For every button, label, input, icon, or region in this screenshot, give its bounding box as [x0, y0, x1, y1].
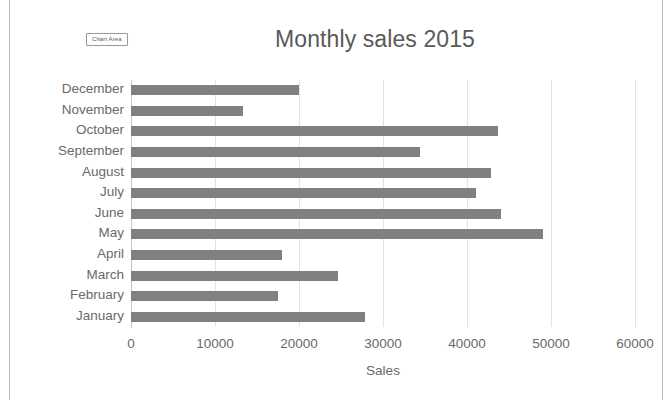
bar-february[interactable]	[131, 291, 278, 301]
value-axis-title: Sales	[131, 363, 635, 378]
bar-row	[131, 286, 635, 307]
value-tick-label-60000: 60000	[616, 336, 654, 351]
bar-october[interactable]	[131, 126, 498, 136]
bar-august[interactable]	[131, 168, 491, 178]
value-tick-label-50000: 50000	[532, 336, 570, 351]
category-label-november: November	[24, 102, 124, 117]
category-label-may: May	[24, 225, 124, 240]
category-label-march: March	[24, 267, 124, 282]
bar-row	[131, 101, 635, 122]
chart-frame: Chart Area Monthly sales 2015 DecemberNo…	[9, 0, 663, 400]
bar-december[interactable]	[131, 85, 299, 95]
bar-may[interactable]	[131, 229, 543, 239]
category-label-february: February	[24, 287, 124, 302]
category-label-july: July	[24, 184, 124, 199]
category-label-december: December	[24, 81, 124, 96]
category-label-september: September	[24, 143, 124, 158]
chart-title: Monthly sales 2015	[10, 26, 672, 53]
value-axis-labels: 0100002000030000400005000060000	[10, 336, 672, 356]
bar-september[interactable]	[131, 147, 420, 157]
bar-row	[131, 245, 635, 266]
bar-row	[131, 121, 635, 142]
gridline	[635, 80, 636, 327]
bar-row	[131, 183, 635, 204]
category-label-april: April	[24, 246, 124, 261]
category-label-january: January	[24, 308, 124, 323]
value-tick-label-10000: 10000	[196, 336, 234, 351]
value-tick-label-30000: 30000	[364, 336, 402, 351]
value-tick-label-20000: 20000	[280, 336, 318, 351]
bar-row	[131, 306, 635, 327]
bar-november[interactable]	[131, 106, 243, 116]
category-label-october: October	[24, 122, 124, 137]
bar-row	[131, 265, 635, 286]
bar-row	[131, 204, 635, 225]
category-label-august: August	[24, 164, 124, 179]
bar-row	[131, 80, 635, 101]
bar-january[interactable]	[131, 312, 365, 322]
bar-row	[131, 224, 635, 245]
bar-row	[131, 142, 635, 163]
bar-april[interactable]	[131, 250, 282, 260]
bar-july[interactable]	[131, 188, 476, 198]
plot-area	[131, 80, 635, 327]
category-axis-labels: DecemberNovemberOctoberSeptemberAugustJu…	[24, 80, 124, 327]
value-tick-label-0: 0	[127, 336, 135, 351]
bar-march[interactable]	[131, 271, 338, 281]
category-label-june: June	[24, 205, 124, 220]
value-tick-label-40000: 40000	[448, 336, 486, 351]
bar-june[interactable]	[131, 209, 501, 219]
bar-row	[131, 162, 635, 183]
